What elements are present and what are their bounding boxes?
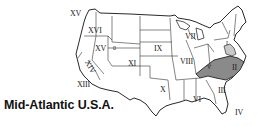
region-label-iii: III: [218, 87, 225, 95]
region-label-mini: 0: [113, 45, 116, 51]
region-label-ii: II: [232, 64, 237, 72]
region-label-xiii: XIII: [77, 81, 90, 89]
region-label-iv: IV: [235, 109, 243, 117]
region-label-xvi: XVI: [88, 27, 102, 35]
region-label-x: X: [160, 86, 166, 94]
region-label-ix: IX: [154, 45, 162, 53]
region-label-vi: VI: [193, 96, 201, 104]
map-caption: Mid-Atlantic U.S.A.: [4, 98, 114, 112]
region-label-i: I: [226, 40, 228, 46]
region-label-v: V: [207, 64, 211, 70]
us-region-map: XV XVI XV 0 XIV XIII XI IX X VII VIII VI…: [0, 0, 260, 127]
region-label-viii: VIII: [180, 58, 193, 66]
region-label-xi: XI: [128, 60, 136, 68]
region-label-vii: VII: [185, 33, 196, 41]
region-label-xv: XV: [95, 45, 106, 53]
region-label-xv-north: XV: [70, 10, 81, 18]
